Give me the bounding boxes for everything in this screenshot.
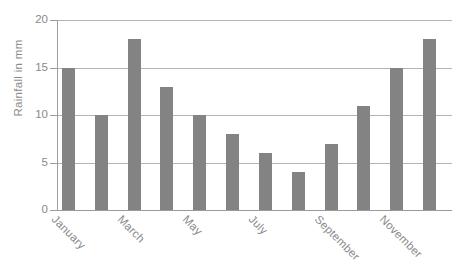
- bar: [325, 144, 338, 211]
- bar: [390, 68, 403, 211]
- plot-area: [58, 20, 452, 210]
- y-tick-label: 20: [6, 14, 48, 26]
- y-tick-label: 15: [6, 62, 48, 74]
- bar: [259, 153, 272, 210]
- bar: [292, 172, 305, 210]
- x-tick-label: July: [246, 213, 270, 237]
- rainfall-bar-chart: Rainfall in mm 05101520 JanuaryMarchMayJ…: [0, 0, 465, 278]
- y-tick-mark-5: [50, 163, 58, 164]
- bar: [62, 68, 75, 211]
- bar: [193, 115, 206, 210]
- bar: [423, 39, 436, 210]
- y-tick-label: 0: [6, 204, 48, 216]
- gridline-20: [58, 20, 452, 21]
- x-tick-label: March: [115, 213, 147, 245]
- y-tick-mark-15: [50, 68, 58, 69]
- y-tick-mark-20: [50, 20, 58, 21]
- gridline-0: [58, 210, 452, 211]
- x-tick-label: January: [49, 213, 87, 251]
- x-tick-label: November: [378, 213, 425, 260]
- y-tick-label: 10: [6, 109, 48, 121]
- x-axis-tick-labels: JanuaryMarchMayJulySeptemberNovember: [58, 213, 452, 277]
- bar: [357, 106, 370, 211]
- x-tick-label: May: [181, 213, 205, 237]
- bar: [128, 39, 141, 210]
- bar: [226, 134, 239, 210]
- bar: [95, 115, 108, 210]
- y-tick-mark-0: [50, 210, 58, 211]
- x-tick-label: September: [312, 213, 362, 263]
- y-axis-tick-labels: 05101520: [0, 20, 48, 211]
- bar: [160, 87, 173, 211]
- y-tick-label: 5: [6, 157, 48, 169]
- y-tick-mark-10: [50, 115, 58, 116]
